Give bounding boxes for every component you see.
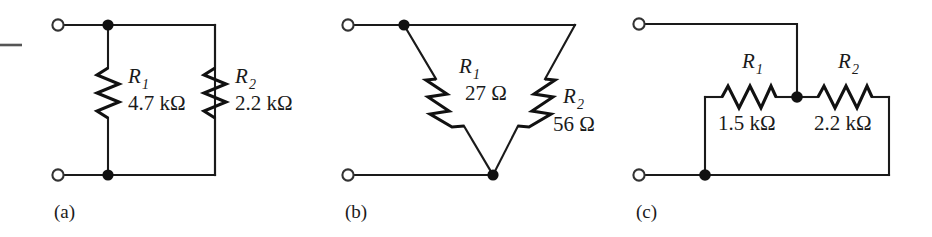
circuit-c-terminal-bottom	[633, 169, 644, 180]
circuit-c-node-bottom	[699, 169, 711, 181]
circuit-c-r2-designator: R	[837, 49, 851, 73]
circuit-c-caption: (c)	[636, 201, 657, 223]
circuit-c-r1-designator: R	[741, 49, 755, 73]
circuit-b-node-bottom	[487, 169, 498, 180]
circuit-b-r1-bottom-lead	[464, 126, 493, 175]
circuit-a-terminal-top	[52, 19, 63, 30]
circuit-b-terminal-bottom	[342, 169, 353, 180]
circuit-b-r2-value: 56 Ω	[553, 112, 595, 136]
circuit-a: R 1 4.7 kΩ R 2 2.2 kΩ (a)	[52, 19, 292, 223]
circuit-b-r1-designator: R	[458, 54, 472, 78]
circuit-b: R 1 27 Ω R 2 56 Ω (b)	[342, 19, 594, 223]
circuit-c-node-tap	[791, 91, 803, 103]
circuit-figure: R 1 4.7 kΩ R 2 2.2 kΩ (a) R 1 27	[0, 0, 932, 237]
circuit-c: R 1 1.5 kΩ R 2 2.2 kΩ (c)	[633, 18, 889, 223]
circuit-b-r2-bottom-lead	[493, 126, 518, 175]
circuit-b-terminal-top	[342, 19, 353, 30]
circuit-a-r2-designator: R	[234, 64, 248, 88]
circuit-b-r2-top-lead	[545, 25, 575, 79]
circuit-a-node-top	[102, 19, 113, 30]
circuit-b-r2-designator: R	[562, 84, 576, 108]
circuit-c-r1-subscript: 1	[756, 62, 763, 77]
circuit-b-node-top	[398, 19, 409, 30]
circuit-c-r2-subscript: 2	[852, 62, 859, 77]
circuit-b-r1-top-lead	[404, 25, 436, 79]
circuit-c-r1-value: 1.5 kΩ	[718, 111, 776, 135]
circuit-a-r1-designator: R	[127, 64, 141, 88]
circuit-c-r2-value: 2.2 kΩ	[814, 111, 872, 135]
circuit-c-resistor-r1-symbol	[722, 86, 776, 108]
circuit-b-r2-subscript: 2	[577, 97, 584, 112]
circuit-a-terminal-bottom	[52, 169, 63, 180]
circuit-a-resistor-r1-symbol	[97, 68, 119, 118]
circuit-b-resistor-r2-symbol	[518, 79, 555, 127]
circuit-c-terminal-top	[633, 18, 644, 29]
circuit-b-resistor-r1-symbol	[426, 79, 464, 127]
circuit-a-r1-subscript: 1	[142, 77, 149, 92]
circuit-a-r1-value: 4.7 kΩ	[128, 91, 186, 115]
circuit-a-r2-value: 2.2 kΩ	[235, 91, 293, 115]
circuit-a-caption: (a)	[54, 201, 75, 223]
circuit-b-caption: (b)	[345, 201, 367, 223]
circuit-b-r1-value: 27 Ω	[465, 81, 507, 105]
circuit-c-resistor-r2-symbol	[818, 86, 872, 108]
circuit-c-top-lead	[645, 24, 797, 97]
circuit-a-r2-subscript: 2	[249, 77, 256, 92]
circuit-b-r1-subscript: 1	[473, 67, 480, 82]
circuit-a-node-bottom	[102, 169, 113, 180]
